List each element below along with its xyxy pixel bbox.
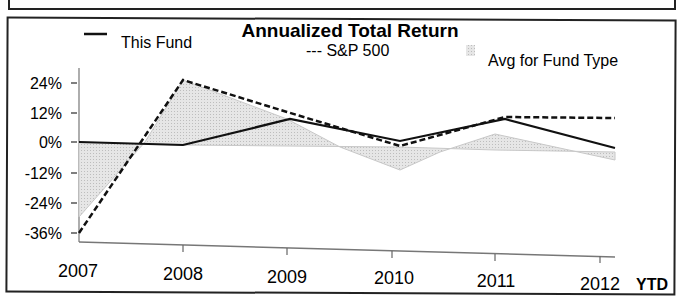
legend-this-fund: This Fund — [121, 34, 192, 51]
legend-avg: Avg for Fund Type — [488, 52, 618, 69]
x-tick-label: 2008 — [163, 264, 203, 284]
y-tick-label: 24% — [30, 75, 62, 92]
chart-title: Annualized Total Return — [241, 20, 458, 41]
x-axis: 2007 2008 2009 2010 2011 2012 YTD — [58, 242, 668, 294]
legend-area-swatch-icon — [466, 45, 475, 56]
sp500-line — [79, 80, 615, 233]
x-tick-label: 2011 — [477, 271, 516, 291]
y-tick-label: -24% — [25, 195, 62, 212]
x-tick-label: 2009 — [267, 267, 307, 287]
ytd-label: YTD — [636, 276, 668, 293]
y-tick-label: -36% — [25, 225, 62, 242]
legend-sp500: --- S&P 500 — [306, 42, 389, 59]
y-axis: 24% 12% 0% -12% -24% -36% — [25, 68, 79, 242]
y-tick-label: 0% — [39, 134, 62, 151]
y-tick-label: -12% — [25, 165, 62, 182]
x-tick-label: 2012 — [580, 274, 620, 294]
x-tick-label: 2010 — [374, 268, 414, 288]
avg-fund-type-area — [79, 80, 615, 217]
x-tick-label: 2007 — [58, 261, 98, 281]
chart-svg: Annualized Total Return This Fund --- S&… — [0, 0, 688, 304]
y-tick-label: 12% — [30, 105, 62, 122]
